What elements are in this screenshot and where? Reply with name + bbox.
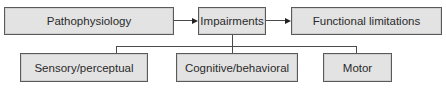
arrowhead-icon [285, 18, 291, 24]
edge-line [174, 20, 192, 21]
node-impairments: Impairments [198, 7, 266, 35]
node-cognitive-behavioral: Cognitive/behavioral [176, 53, 298, 82]
node-pathophysiology: Pathophysiology [4, 7, 174, 35]
node-label: Cognitive/behavioral [185, 62, 289, 74]
edge-line [116, 46, 117, 53]
node-label: Impairments [200, 15, 263, 27]
node-label: Motor [343, 62, 372, 74]
edge-line [232, 46, 233, 53]
edge-line [356, 46, 357, 53]
node-label: Functional limitations [313, 15, 420, 27]
arrowhead-icon [192, 18, 198, 24]
edge-line [232, 35, 233, 46]
edge-line [116, 46, 357, 47]
node-motor: Motor [323, 53, 392, 82]
node-label: Sensory/perceptual [34, 62, 133, 74]
node-label: Pathophysiology [47, 15, 131, 27]
node-sensory-perceptual: Sensory/perceptual [20, 53, 148, 82]
node-functional-limitations: Functional limitations [291, 7, 442, 35]
edge-line [266, 20, 285, 21]
